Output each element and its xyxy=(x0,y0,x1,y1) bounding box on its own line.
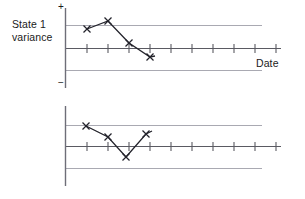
variance-series-line xyxy=(86,126,152,157)
state-1-variance-chart: State 1 variance + − Date xyxy=(0,0,305,100)
series-data-markers xyxy=(84,18,154,61)
chart-1-plot-area xyxy=(0,0,305,100)
variance-series-line xyxy=(87,21,155,57)
state-2-variance-chart: State 2 variance + − Date xyxy=(0,100,305,199)
chart-1-positive-sign: + xyxy=(58,2,64,12)
chart-1-x-axis-label: Date xyxy=(256,57,279,70)
chart-2-plot-area xyxy=(0,100,305,199)
chart-1-y-axis-label-line1: State 1 xyxy=(12,18,53,31)
chart-1-negative-sign: − xyxy=(58,78,64,88)
chart-1-y-axis-label: State 1 variance xyxy=(12,18,53,43)
chart-1-y-axis-label-line2: variance xyxy=(12,31,53,44)
